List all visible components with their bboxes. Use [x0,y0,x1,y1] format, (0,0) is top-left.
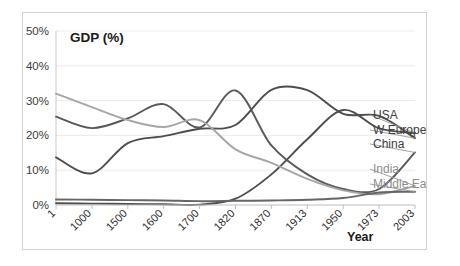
y-tick-label: 30% [26,95,49,107]
legend-label-w-europe: W Europe [373,123,426,137]
x-tick-label: 2003 [391,207,417,233]
series-line-china [56,90,415,192]
chart-title: GDP (%) [70,30,124,45]
y-tick-label: 10% [26,164,49,176]
x-tick-label: 1913 [283,207,309,233]
y-tick-label: 40% [26,60,49,72]
chart-frame: 0%10%20%30%40%50% 1100015001600170018201… [22,12,427,250]
x-tick-label: 1973 [355,207,381,233]
series-line-w-europe [56,86,415,173]
y-tick-label: 50% [26,25,49,37]
y-tick-label: 20% [26,129,49,141]
x-tick-label: 1870 [247,207,273,233]
x-axis-title: Year [347,230,374,244]
x-tick-label: 1700 [175,207,201,233]
x-tick-label: 1500 [103,207,129,233]
x-tick-label: 1820 [211,207,237,233]
legend: USAW EuropeChinaIndiaMiddle East [370,108,426,192]
gdp-share-line-chart: 0%10%20%30%40%50% 1100015001600170018201… [23,13,426,249]
x-tick-label: 1600 [139,207,165,233]
series-line-india [56,94,415,195]
legend-label-usa: USA [373,108,398,122]
chart-screenshot: 0%10%20%30%40%50% 1100015001600170018201… [0,0,460,266]
x-axis-tick-labels: 1100015001600170018201870191319501973200… [45,207,417,233]
x-axis-ticks [56,205,415,209]
y-axis-tick-labels: 0%10%20%30%40%50% [26,25,49,211]
x-tick-label: 1950 [319,207,345,233]
x-tick-label: 1000 [68,207,94,233]
series-layer [56,86,415,205]
legend-label-china: China [373,137,405,151]
legend-label-india: India [373,162,399,176]
x-tick-label: 1 [45,207,58,220]
legend-label-middle-east: Middle East [373,177,426,191]
